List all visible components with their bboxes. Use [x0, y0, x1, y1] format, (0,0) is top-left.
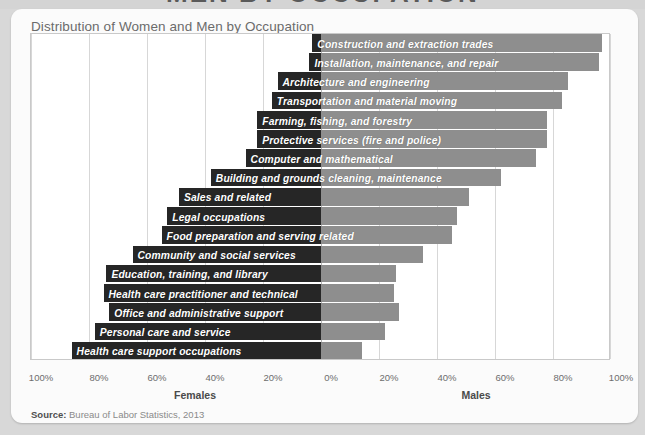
bar-male: [321, 207, 457, 225]
table-row: Computer and mathematical: [31, 149, 609, 168]
table-row: Legal occupations: [31, 207, 609, 226]
bar-female: [211, 169, 321, 187]
table-row: Farming, fishing, and forestry: [31, 111, 609, 130]
x-tick-label: 40%: [205, 372, 224, 383]
table-row: Sales and related: [31, 188, 609, 207]
table-row: Health care practitioner and technical: [31, 284, 609, 303]
x-tick-label: 20%: [379, 372, 398, 383]
table-row: Installation, maintenance, and repair: [31, 53, 609, 72]
gridline-100: [610, 34, 611, 359]
table-row: Protective services (fire and police): [31, 130, 609, 149]
bar-female: [104, 284, 322, 302]
bar-male: [321, 303, 399, 321]
x-tick-label: 100%: [29, 372, 53, 383]
bar-male: [321, 34, 602, 52]
bar-female: [312, 34, 321, 52]
source-label: Source:: [31, 409, 66, 420]
table-row: Transportation and material moving: [31, 92, 609, 111]
bar-rows: Construction and extraction tradesInstal…: [31, 34, 609, 359]
x-tick-label: 60%: [147, 372, 166, 383]
table-row: Community and social services: [31, 246, 609, 265]
bar-female: [72, 342, 321, 360]
bar-male: [321, 323, 385, 341]
axis-caption-females: Females: [174, 389, 216, 401]
bar-male: [321, 92, 562, 110]
x-axis-ticks: 100%80%60%40%20%0%20%40%60%80%100%: [41, 372, 621, 385]
axis-caption-males: Males: [461, 389, 490, 401]
bar-male: [321, 284, 394, 302]
table-row: Architecture and engineering: [31, 72, 609, 91]
bar-female: [133, 246, 322, 264]
bar-male: [321, 72, 568, 90]
chart-card: Distribution of Women and Men by Occupat…: [11, 9, 638, 423]
table-row: Office and administrative support: [31, 303, 609, 322]
bar-male: [321, 342, 362, 360]
x-tick-label: 20%: [263, 372, 282, 383]
bar-female: [167, 207, 321, 225]
table-row: Building and grounds cleaning, maintenan…: [31, 169, 609, 188]
bar-female: [109, 303, 321, 321]
table-row: Construction and extraction trades: [31, 34, 609, 53]
x-tick-label: 0%: [324, 372, 338, 383]
x-tick-label: 80%: [553, 372, 572, 383]
bar-female: [162, 226, 322, 244]
chart-page: MEN BY OCCUPATION Distribution of Women …: [0, 0, 645, 435]
bar-female: [95, 323, 321, 341]
table-row: Personal care and service: [31, 323, 609, 342]
bar-female: [278, 72, 322, 90]
table-row: Education, training, and library: [31, 265, 609, 284]
table-row: Food preparation and serving related: [31, 226, 609, 245]
source-value: Bureau of Labor Statistics, 2013: [66, 409, 204, 420]
bar-male: [321, 130, 547, 148]
bar-male: [321, 111, 547, 129]
bar-male: [321, 188, 469, 206]
chart-title: Distribution of Women and Men by Occupat…: [31, 19, 314, 34]
source-note: Source: Bureau of Labor Statistics, 2013: [31, 409, 204, 420]
cropped-banner-title: MEN BY OCCUPATION: [0, 0, 645, 9]
bar-male: [321, 149, 536, 167]
bar-male: [321, 265, 396, 283]
chart-plot-area: Construction and extraction tradesInstal…: [30, 33, 610, 360]
x-tick-label: 40%: [437, 372, 456, 383]
table-row: Health care support occupations: [31, 342, 609, 361]
bar-female: [309, 53, 321, 71]
bar-male: [321, 53, 599, 71]
bar-female: [272, 92, 321, 110]
banner-title-text: MEN BY OCCUPATION: [166, 0, 479, 9]
bar-male: [321, 246, 423, 264]
bar-male: [321, 226, 452, 244]
x-tick-label: 60%: [495, 372, 514, 383]
bar-female: [106, 265, 321, 283]
bar-female: [257, 111, 321, 129]
bar-male: [321, 169, 501, 187]
x-tick-label: 80%: [89, 372, 108, 383]
bar-female: [179, 188, 321, 206]
bar-female: [257, 130, 321, 148]
x-tick-label: 100%: [609, 372, 633, 383]
bar-female: [246, 149, 321, 167]
